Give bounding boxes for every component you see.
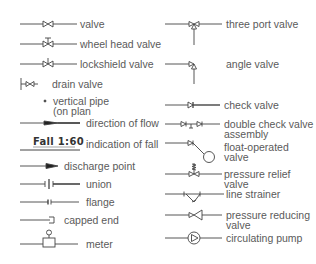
legend-label-union: union <box>86 179 112 189</box>
legend-label-drain-valve: drain valve <box>52 79 103 89</box>
legend-label-circulating-pump: circulating pump <box>226 233 302 243</box>
legend-label-lockshield-valve: lockshield valve <box>80 59 154 69</box>
legend-label-pressure-reducing-valve-line2: valve <box>226 220 251 230</box>
fall-ratio-text: Fall 1:60 <box>33 136 84 147</box>
line-strainer-symbol-icon <box>165 192 224 203</box>
three-port-valve-symbol-icon <box>165 22 222 46</box>
pressure-reducing-valve-symbol-icon <box>165 210 222 220</box>
legend-label-discharge-point: discharge point <box>64 161 135 171</box>
capped-end-symbol-icon <box>20 217 54 223</box>
angle-valve-symbol-icon <box>165 62 197 85</box>
circulating-pump-symbol-icon <box>165 232 222 244</box>
float-operated-valve-symbol-icon <box>165 141 215 163</box>
discharge-point-arrow-icon <box>20 164 58 169</box>
direction-of-flow-arrow-icon <box>20 121 80 125</box>
check-valve-symbol-icon <box>165 102 220 108</box>
union-symbol-icon <box>20 179 80 189</box>
pressure-relief-valve-symbol-icon <box>165 163 222 177</box>
legend-label-float-operated-valve-line2: valve <box>224 152 249 162</box>
lockshield-valve-symbol-icon <box>20 58 77 67</box>
legend-label-valve: valve <box>80 19 105 29</box>
legend-label-three-port-valve: three port valve <box>226 19 298 29</box>
vertical-pipe-dot-icon <box>44 100 46 102</box>
flange-symbol-icon <box>20 200 79 205</box>
legend-label-check-valve: check valve <box>224 100 279 110</box>
legend-label-meter: meter <box>86 239 113 249</box>
legend-label-capped-end: capped end <box>64 215 119 225</box>
wheel-head-valve-symbol-icon <box>20 38 77 47</box>
legend-label-indication-of-fall: indication of fall <box>86 139 158 149</box>
legend-label-line-strainer: line strainer <box>226 189 280 199</box>
legend-label-direction-of-flow: direction of flow <box>86 118 159 128</box>
legend-label-vertical-pipe-line2: (on plan <box>53 106 91 116</box>
meter-symbol-icon <box>20 230 78 247</box>
double-check-valve-symbol-icon <box>165 122 220 129</box>
legend-label-angle-valve: angle valve <box>226 59 279 69</box>
legend-label-flange: flange <box>86 197 115 207</box>
legend-label-wheel-head-valve: wheel head valve <box>80 39 161 49</box>
drain-valve-symbol-icon <box>21 78 38 90</box>
legend-label-double-check-valve-line2: assembly <box>224 129 268 139</box>
valve-symbol-icon <box>20 21 77 27</box>
